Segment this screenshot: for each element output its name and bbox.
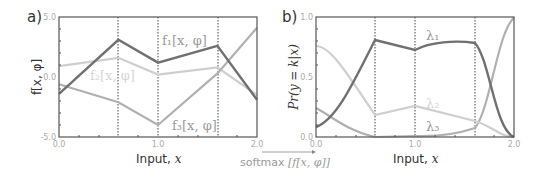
x-tick-label: 2.0 xyxy=(251,140,264,149)
panel-a-label: a) xyxy=(27,8,42,26)
label-lambda2: λ₂ xyxy=(426,96,439,111)
softmax-arrow: softmax [f[x, φ]] xyxy=(240,150,331,169)
x-tick-label: 2.0 xyxy=(508,140,521,149)
x-tick-label: 1.0 xyxy=(152,140,165,149)
x-tick-label: 0.0 xyxy=(53,140,66,149)
y-tick-label: 5.0 xyxy=(43,13,56,22)
label-lambda1: λ₁ xyxy=(426,28,439,43)
y-axis-label-b: Pr(y = k|x) xyxy=(287,44,301,111)
x-axis-label-b: Input, x xyxy=(393,152,439,166)
series-f1 xyxy=(59,40,257,100)
label-lambda3: λ₃ xyxy=(426,119,439,134)
plot-a: 5.0 0.0 -5.0 0.0 1.0 2.0 f₁[x, φ] f₂[x, … xyxy=(30,13,263,166)
label-f1: f₁[x, φ] xyxy=(162,33,207,48)
panel-b-label: b) xyxy=(282,8,297,26)
plot-b: 1.0 0.5 0.0 0.0 1.0 2.0 λ₁ λ₂ λ₃ Input, … xyxy=(287,13,520,166)
label-f3: f₃[x, φ] xyxy=(172,118,217,133)
label-f2: f₂[x, φ] xyxy=(90,68,135,83)
softmax-label: softmax [f[x, φ]] xyxy=(240,156,331,169)
x-tick-label: 0.0 xyxy=(310,140,323,149)
y-tick-label: 1.0 xyxy=(300,13,313,22)
x-tick-label: 1.0 xyxy=(409,140,422,149)
y-tick-label: 0.5 xyxy=(300,73,313,82)
figure: a) 5.0 0.0 -5.0 0.0 1.0 2.0 f₁[x, φ] f₂[… xyxy=(0,0,545,178)
y-axis-label-a: f[x, φ] xyxy=(30,59,44,95)
y-tick-label: 0.0 xyxy=(43,73,56,82)
x-axis-label-a: Input, x xyxy=(136,152,182,166)
